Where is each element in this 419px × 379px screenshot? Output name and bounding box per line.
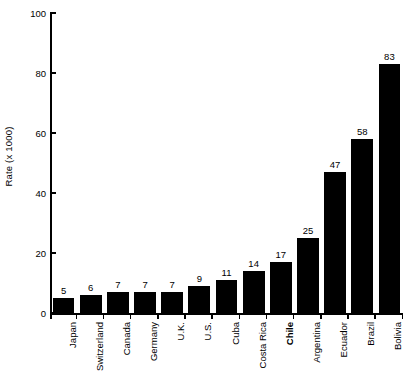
x-axis-category-label: U.S. (203, 322, 217, 340)
bar-value-label: 47 (324, 160, 346, 170)
bar-value-label: 25 (297, 226, 319, 236)
bar-value-label: 7 (134, 280, 156, 290)
bar (216, 280, 238, 313)
bar (379, 64, 401, 313)
x-axis-category-label: Germany (149, 322, 163, 361)
x-axis-tick (374, 313, 376, 319)
x-axis-category-label: Japan (68, 322, 82, 348)
x-axis-tick (157, 313, 159, 319)
bar-value-label: 83 (379, 52, 401, 62)
bar-group: 25 (297, 13, 319, 313)
y-axis-tick-label: 80 (20, 69, 46, 79)
bar-value-label: 7 (161, 280, 183, 290)
bar-value-label: 17 (270, 250, 292, 260)
bar-group: 14 (243, 13, 265, 313)
x-axis-tick (103, 313, 105, 319)
bar-group: 7 (161, 13, 183, 313)
bar (297, 238, 319, 313)
bar (243, 271, 265, 313)
x-axis-tick (239, 313, 241, 319)
plot-area: 56777911141725475883 (50, 13, 403, 313)
bar (161, 292, 183, 313)
x-axis-category-label: Argentina (312, 322, 326, 363)
x-axis-category-label: Chile (285, 322, 299, 345)
bar (351, 139, 373, 313)
bar-value-label: 5 (53, 286, 75, 296)
y-axis-tick-label: 100 (20, 9, 46, 19)
x-axis-tick (320, 313, 322, 319)
bar-group: 11 (216, 13, 238, 313)
bar-value-label: 11 (216, 268, 238, 278)
y-axis-title: Rate (x 1000) (0, 0, 16, 313)
x-axis-category-label: U.K. (176, 322, 190, 340)
bar-group: 7 (134, 13, 156, 313)
bar (270, 262, 292, 313)
x-axis-category-label: Costa Rica (258, 322, 272, 368)
x-axis-tick (402, 313, 404, 319)
y-axis-title-text: Rate (x 1000) (3, 126, 14, 186)
bar-group: 47 (324, 13, 346, 313)
bar-value-label: 14 (243, 259, 265, 269)
bar-group: 58 (351, 13, 373, 313)
bar (188, 286, 210, 313)
bar (80, 295, 102, 313)
x-axis-tick (211, 313, 213, 319)
x-axis-tick (76, 313, 78, 319)
y-axis-tick-label: 0 (20, 309, 46, 319)
bar (134, 292, 156, 313)
x-axis-tick (266, 313, 268, 319)
bar-group: 5 (53, 13, 75, 313)
x-axis-tick (293, 313, 295, 319)
y-axis-tick-label: 40 (20, 189, 46, 199)
bar (53, 298, 75, 313)
bar-group: 83 (379, 13, 401, 313)
x-axis-category-label: Canada (122, 322, 136, 355)
bar-group: 6 (80, 13, 102, 313)
x-axis-category-label: Brazil (366, 322, 380, 346)
y-axis-tick-label: 20 (20, 249, 46, 259)
x-axis-category-label: Switzerland (95, 322, 109, 371)
x-axis-category-label: Cuba (231, 322, 245, 345)
bar-value-label: 6 (80, 283, 102, 293)
x-axis-tick (130, 313, 132, 319)
bar (107, 292, 129, 313)
bar-group: 9 (188, 13, 210, 313)
x-axis-tick (50, 313, 52, 319)
y-axis-tick-label: 60 (20, 129, 46, 139)
bar-value-label: 58 (351, 127, 373, 137)
bar-group: 17 (270, 13, 292, 313)
x-axis-category-label: Bolivia (393, 322, 407, 350)
bar (324, 172, 346, 313)
x-axis-tick (184, 313, 186, 319)
bar-value-label: 7 (107, 280, 129, 290)
x-axis-tick (347, 313, 349, 319)
bar-group: 7 (107, 13, 129, 313)
x-axis-category-label: Ecuador (339, 322, 353, 357)
bar-value-label: 9 (188, 274, 210, 284)
bar-chart: Rate (x 1000) 020406080100 5677791114172… (0, 0, 419, 379)
